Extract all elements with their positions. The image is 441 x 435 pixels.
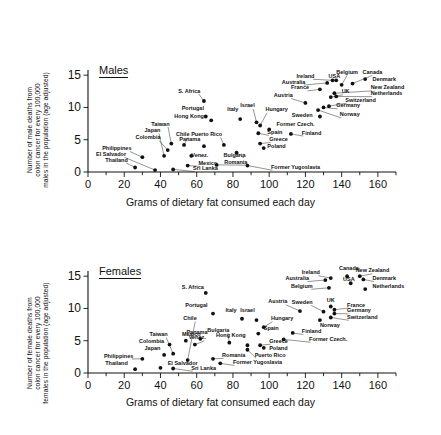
- svg-text:40: 40: [154, 379, 166, 391]
- data-point: [211, 357, 215, 361]
- data-point: [171, 352, 175, 356]
- data-point: [329, 95, 333, 99]
- svg-text:120: 120: [296, 379, 314, 391]
- data-point: [323, 278, 327, 282]
- point-label: Former Czech.: [309, 336, 348, 342]
- svg-text:5: 5: [74, 334, 81, 348]
- data-point: [262, 146, 266, 150]
- point-label: Australia: [285, 275, 309, 281]
- point-label: Sweden: [292, 112, 313, 118]
- data-point: [255, 318, 259, 322]
- svg-text:20: 20: [118, 379, 130, 391]
- svg-text:80: 80: [227, 178, 239, 190]
- point-label: S. Africa: [178, 88, 201, 94]
- point-label: Canada: [363, 69, 384, 75]
- svg-text:5: 5: [74, 133, 81, 147]
- svg-text:15: 15: [68, 68, 82, 82]
- svg-text:60: 60: [191, 379, 203, 391]
- data-point: [202, 144, 206, 148]
- point-label: Romania: [222, 352, 246, 358]
- point-label: Netherlands: [371, 90, 403, 96]
- point-label: Belgium: [291, 283, 313, 289]
- data-point: [258, 124, 262, 128]
- point-label: Australia: [282, 79, 306, 85]
- data-point: [162, 353, 166, 357]
- point-label: Former Yugoslavia: [233, 359, 283, 365]
- data-point: [298, 309, 302, 313]
- point-label: Colombia: [135, 134, 161, 140]
- scatter-chart-females: Number of female deaths from colon cance…: [0, 218, 441, 435]
- svg-text:0: 0: [85, 178, 91, 190]
- data-point: [331, 78, 335, 82]
- data-point: [316, 108, 320, 112]
- svg-text:40: 40: [154, 178, 166, 190]
- point-label: Taiwan: [151, 121, 170, 127]
- data-point: [246, 348, 250, 352]
- data-point: [262, 346, 266, 350]
- point-label: Poland: [267, 143, 285, 149]
- point-label: Denmark: [372, 76, 396, 82]
- data-point: [289, 132, 293, 136]
- scatter-chart-males: Number of male deaths from colon cancer …: [0, 0, 441, 217]
- data-point: [256, 131, 260, 135]
- point-label: Romania: [224, 159, 248, 165]
- point-label: Sweden: [292, 299, 313, 305]
- data-point: [222, 143, 226, 147]
- data-point: [166, 148, 170, 152]
- point-label: Germany: [347, 307, 372, 313]
- data-point: [133, 367, 137, 371]
- x-axis-title-males: Grams of dietary fat consumed each day: [0, 196, 441, 208]
- point-label: Mexico: [199, 160, 218, 166]
- data-point: [325, 81, 329, 85]
- point-label: Austria: [274, 92, 294, 98]
- point-label: Greece: [269, 338, 288, 344]
- point-label: Portugal: [182, 105, 205, 111]
- data-point: [218, 361, 222, 365]
- data-point: [169, 142, 173, 146]
- point-label: UK: [342, 88, 350, 94]
- point-label: Thailand: [105, 157, 128, 163]
- data-point: [204, 115, 208, 119]
- data-point: [209, 118, 213, 122]
- data-point: [322, 106, 326, 110]
- data-point: [327, 104, 331, 108]
- point-label: Finland: [302, 130, 322, 136]
- point-label: Spain: [264, 325, 280, 331]
- data-point: [340, 83, 344, 87]
- data-point: [171, 168, 175, 172]
- data-point: [322, 310, 326, 314]
- point-label: France: [291, 84, 309, 90]
- point-label: Japan: [145, 127, 162, 133]
- data-point: [291, 331, 295, 335]
- data-point: [153, 168, 157, 172]
- svg-text:0: 0: [74, 165, 81, 179]
- point-label: Norway: [340, 111, 361, 117]
- point-label: Puerto Rico: [191, 131, 223, 137]
- point-label: Poland: [269, 345, 287, 351]
- point-label: Italy: [226, 307, 238, 313]
- data-point: [361, 277, 365, 281]
- data-point: [182, 143, 186, 147]
- point-label: Taiwan: [149, 331, 168, 337]
- point-label: Philippines: [102, 145, 131, 151]
- data-point: [238, 117, 242, 121]
- plot-area-females: 020406080100120140160051015ThailandPhili…: [0, 218, 441, 413]
- point-label: Venez.: [189, 334, 207, 340]
- point-label: Chile: [183, 315, 196, 321]
- point-label: Ireland: [302, 269, 320, 275]
- point-label: Hungary: [271, 315, 294, 321]
- data-point: [162, 154, 166, 158]
- data-point: [184, 339, 188, 343]
- point-label: Thailand: [105, 360, 128, 366]
- svg-text:120: 120: [296, 178, 314, 190]
- point-label: Hong Kong: [174, 113, 204, 119]
- svg-text:160: 160: [369, 178, 387, 190]
- point-label: Japan: [145, 345, 162, 351]
- svg-text:140: 140: [332, 178, 350, 190]
- svg-text:10: 10: [68, 301, 82, 315]
- data-point: [363, 287, 367, 291]
- data-point: [133, 166, 137, 170]
- data-point: [256, 332, 260, 336]
- data-point: [304, 101, 308, 105]
- point-label: Finland: [302, 328, 322, 334]
